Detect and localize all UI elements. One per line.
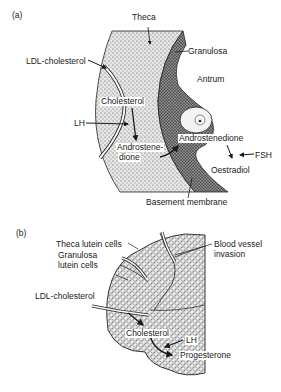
label-blood-vessel-2: invasion: [214, 250, 245, 259]
label-cholesterol-b: Cholesterol: [125, 329, 170, 338]
label-ldl-cholesterol-a: LDL-cholesterol: [26, 57, 86, 66]
panel-b-tag: (b): [16, 228, 26, 238]
label-androstenedione-granulosa: Androstenedione: [178, 134, 244, 143]
label-androstenedione-theca-1: Androstene-: [116, 143, 164, 152]
label-granulosa-lutein-1: Granulosa: [58, 251, 97, 260]
label-fsh: FSH: [255, 151, 272, 160]
label-lh-a: LH: [74, 119, 85, 128]
label-granulosa: Granulosa: [188, 47, 227, 56]
label-androstenedione-theca-2: dione: [118, 153, 141, 162]
label-ldl-cholesterol-b: LDL-cholesterol: [35, 292, 95, 301]
label-lh-b: LH: [185, 336, 198, 345]
label-oestradiol: Oestradiol: [211, 166, 250, 175]
label-antrum: Antrum: [197, 75, 224, 84]
label-progesterone: Progesterone: [179, 351, 232, 360]
label-theca-lutein-cells: Theca lutein cells: [56, 240, 122, 249]
label-granulosa-lutein-2: lutein cells: [58, 261, 98, 270]
panel-a-tag: (a): [12, 10, 22, 20]
label-cholesterol-a: Cholesterol: [100, 97, 145, 106]
label-basement-membrane: Basement membrane: [146, 198, 227, 207]
label-theca: Theca: [132, 13, 156, 22]
label-blood-vessel-1: Blood vessel: [214, 240, 262, 249]
